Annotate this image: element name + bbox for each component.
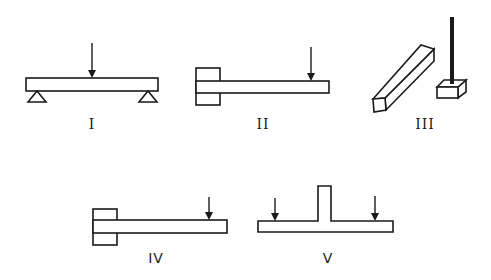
load-arrow-right-icon [371,196,379,221]
figure-label-1: I [72,117,112,131]
load-arrow-icon [205,197,213,220]
figure-3-bar-and-rod [373,17,466,112]
beam-2 [196,81,329,93]
figure-label-2: II [243,117,283,131]
diagram-canvas [0,0,491,280]
load-arrow-left-icon [271,198,279,221]
figure-4-cantilever-beam [93,197,227,245]
beam-1 [26,78,158,91]
prismatic-bar [373,45,434,112]
load-arrow-icon [307,47,315,81]
load-arrow-icon [88,43,96,78]
figure-label-3: III [405,117,445,131]
support-right-icon [139,91,157,102]
figure-label-4: IV [136,251,176,265]
figure-1-simply-supported-beam [26,43,158,102]
figure-5-t-beam [258,186,393,232]
t-beam-outline [258,186,393,232]
figure-label-5: V [308,251,348,265]
figure-2-cantilever-beam [196,47,329,105]
beam-4 [93,220,227,233]
support-left-icon [28,91,46,102]
